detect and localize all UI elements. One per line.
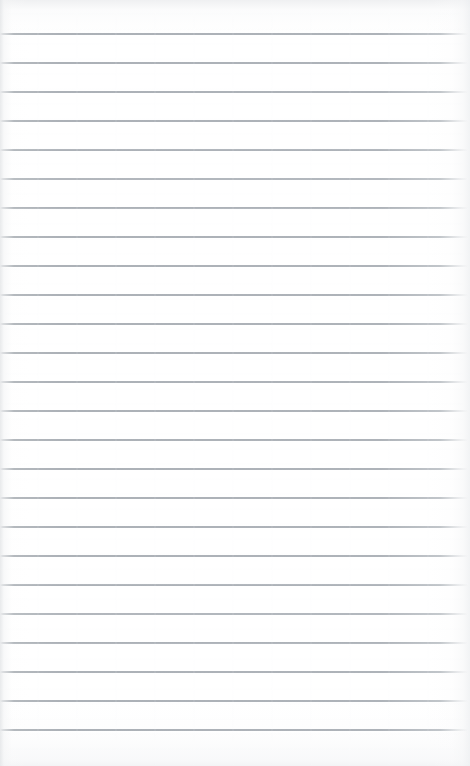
rule-line [0, 497, 470, 499]
rule-line [0, 584, 470, 586]
rule-line [0, 323, 470, 325]
paper-sheet [0, 0, 470, 766]
rule-line [0, 468, 470, 470]
rule-line [0, 207, 470, 209]
rule-line [0, 352, 470, 354]
rule-line [0, 236, 470, 238]
rule-line [0, 613, 470, 615]
rule-line [0, 33, 470, 35]
rule-line [0, 729, 470, 731]
notepad-page: Blank ruled notepad page [0, 0, 470, 766]
rule-line [0, 91, 470, 93]
rule-line [0, 294, 470, 296]
rule-line [0, 642, 470, 644]
rule-line [0, 149, 470, 151]
rule-line [0, 671, 470, 673]
ruled-lines-group [0, 0, 470, 766]
rule-line [0, 120, 470, 122]
rule-line [0, 410, 470, 412]
rule-line [0, 381, 470, 383]
rule-line [0, 555, 470, 557]
rule-line [0, 700, 470, 702]
rule-line [0, 526, 470, 528]
rule-line [0, 439, 470, 441]
paper-grain-texture [0, 0, 470, 766]
rule-line [0, 62, 470, 64]
rule-line [0, 265, 470, 267]
rule-line [0, 178, 470, 180]
